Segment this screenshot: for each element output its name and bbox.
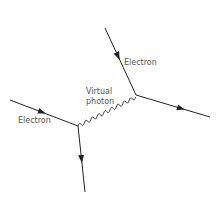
label-electron-left: Electron	[18, 116, 51, 125]
label-virtual: Virtual	[86, 87, 112, 96]
feynman-diagram: Electron Electron Virtual photon	[0, 0, 222, 210]
electron-line-outgoing-right	[136, 95, 210, 117]
electron-line-outgoing-bottom	[78, 126, 85, 192]
label-photon: photon	[86, 97, 114, 106]
label-electron-top: Electron	[124, 58, 157, 67]
